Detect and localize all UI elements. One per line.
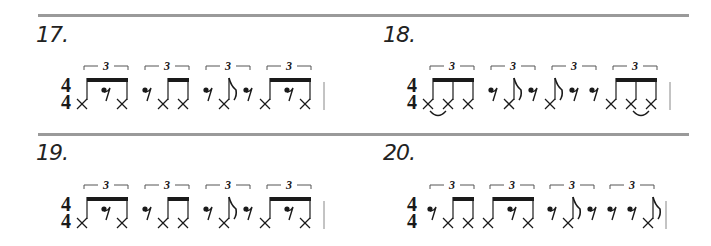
eighth-flag-icon	[555, 78, 562, 100]
tuplet-number: 3	[163, 59, 170, 73]
tuplet-number: 3	[448, 59, 455, 73]
note-beam	[453, 197, 474, 201]
note-beam	[616, 78, 657, 82]
tuplet-number: 3	[628, 178, 635, 192]
tuplet-number: 3	[448, 178, 455, 192]
tie-arc	[430, 111, 446, 116]
eighth-flag-icon	[653, 197, 660, 219]
tuplet-number: 3	[568, 178, 575, 192]
note-beam	[270, 78, 311, 82]
eighth-flag-icon	[229, 78, 236, 100]
time-signature-bottom: 4	[61, 91, 71, 113]
tuplet-number: 3	[285, 178, 292, 192]
tuplet-number: 3	[102, 59, 109, 73]
eighth-flag-icon	[573, 197, 580, 219]
eighth-flag-icon	[514, 78, 521, 100]
notation-canvas: 443333443333443333443333	[0, 0, 711, 246]
tuplet-number: 3	[508, 178, 515, 192]
tuplet-number: 3	[224, 59, 231, 73]
tuplet-number: 3	[224, 178, 231, 192]
tuplet-number: 3	[631, 59, 638, 73]
eighth-flag-icon	[229, 197, 236, 219]
note-beam	[433, 78, 474, 82]
tuplet-number: 3	[509, 59, 516, 73]
time-signature-bottom: 4	[61, 210, 71, 232]
note-beam	[270, 197, 311, 201]
note-beam	[168, 78, 189, 82]
note-beam	[87, 197, 128, 201]
note-beam	[87, 78, 128, 82]
rhythm-notation: 443333443333443333443333	[61, 59, 670, 232]
note-beam	[493, 197, 534, 201]
tie-arc	[633, 111, 649, 116]
tuplet-number: 3	[570, 59, 577, 73]
tuplet-number: 3	[102, 178, 109, 192]
time-signature-bottom: 4	[407, 210, 417, 232]
tuplet-number: 3	[163, 178, 170, 192]
note-beam	[168, 197, 189, 201]
time-signature-bottom: 4	[407, 91, 417, 113]
tuplet-number: 3	[285, 59, 292, 73]
